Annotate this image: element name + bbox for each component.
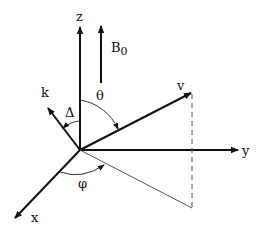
- phi-label: φ: [78, 176, 87, 191]
- y-axis-label: y: [241, 143, 250, 158]
- z-axis-label: z: [76, 9, 83, 24]
- b0-label: B0: [111, 40, 128, 58]
- k-vector: [48, 108, 80, 150]
- b0-label-main: B: [111, 40, 121, 55]
- theta-arc: [80, 100, 118, 129]
- x-axis: [15, 150, 80, 218]
- delta-label: Δ: [65, 105, 74, 120]
- k-label: k: [41, 85, 49, 100]
- v-label: v: [176, 78, 185, 93]
- delta-arc: [63, 121, 80, 128]
- theta-label: θ: [96, 88, 104, 103]
- b0-label-subscript: 0: [121, 45, 128, 58]
- x-axis-label: x: [31, 210, 39, 225]
- vector-diagram: z y x B0 k v θ Δ φ: [0, 0, 261, 232]
- v-projection-line: [80, 150, 192, 208]
- phi-arc: [60, 165, 104, 175]
